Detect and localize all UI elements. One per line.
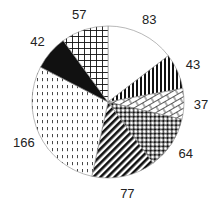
slice-label: 42 <box>30 34 44 49</box>
pie-chart: 83433764771664257 <box>0 0 211 206</box>
slice-label: 77 <box>120 186 134 201</box>
slice-label: 83 <box>142 12 156 27</box>
slice-label: 43 <box>186 57 200 72</box>
slice-label: 57 <box>72 7 86 22</box>
pie-slices <box>32 26 184 178</box>
slice-label: 166 <box>13 135 35 150</box>
slice-label: 37 <box>194 97 208 112</box>
slice-label: 64 <box>178 146 192 161</box>
